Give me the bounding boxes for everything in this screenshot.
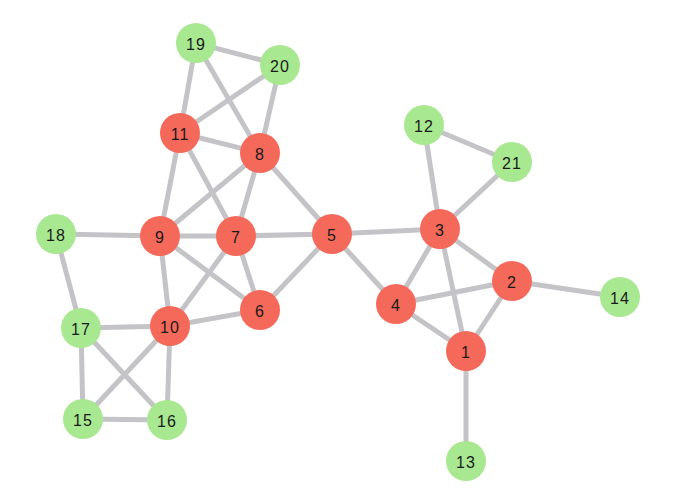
node-3[interactable]: 3 [420, 209, 460, 249]
node-13[interactable]: 13 [446, 441, 486, 481]
node-18[interactable]: 18 [36, 214, 76, 254]
node-label: 4 [391, 297, 401, 314]
node-9[interactable]: 9 [140, 216, 180, 256]
node-label: 20 [270, 58, 290, 75]
node-1[interactable]: 1 [446, 331, 486, 371]
network-graph: 123456789101112131415161718192021 [0, 0, 673, 498]
node-label: 10 [160, 319, 180, 336]
node-17[interactable]: 17 [61, 308, 101, 348]
node-20[interactable]: 20 [260, 45, 300, 85]
node-6[interactable]: 6 [240, 290, 280, 330]
node-label: 1 [461, 344, 471, 361]
node-7[interactable]: 7 [216, 216, 256, 256]
node-15[interactable]: 15 [63, 399, 103, 439]
node-label: 19 [186, 36, 206, 53]
node-label: 8 [255, 146, 265, 163]
node-label: 12 [414, 118, 434, 135]
node-label: 3 [435, 222, 445, 239]
node-label: 15 [73, 412, 93, 429]
node-8[interactable]: 8 [240, 133, 280, 173]
node-14[interactable]: 14 [600, 277, 640, 317]
node-label: 21 [502, 155, 522, 172]
node-label: 7 [231, 229, 241, 246]
node-label: 16 [157, 413, 177, 430]
node-19[interactable]: 19 [176, 23, 216, 63]
node-2[interactable]: 2 [492, 261, 532, 301]
node-label: 17 [71, 321, 91, 338]
node-11[interactable]: 11 [160, 113, 200, 153]
node-12[interactable]: 12 [404, 105, 444, 145]
node-4[interactable]: 4 [376, 284, 416, 324]
node-label: 9 [155, 229, 165, 246]
node-label: 6 [255, 303, 265, 320]
node-label: 18 [46, 227, 66, 244]
node-label: 13 [456, 454, 476, 471]
node-10[interactable]: 10 [150, 306, 190, 346]
node-16[interactable]: 16 [147, 400, 187, 440]
node-label: 14 [610, 290, 630, 307]
node-21[interactable]: 21 [492, 142, 532, 182]
node-5[interactable]: 5 [312, 214, 352, 254]
node-label: 11 [171, 126, 190, 143]
node-label: 2 [507, 274, 517, 291]
node-layer: 123456789101112131415161718192021 [36, 23, 640, 481]
node-label: 5 [327, 227, 337, 244]
